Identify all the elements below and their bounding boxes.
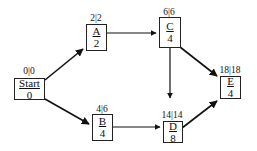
edge-layer bbox=[0, 0, 257, 151]
node-a: A 2 bbox=[86, 24, 107, 51]
node-start: Start 0 bbox=[14, 78, 45, 100]
node-e-duration: 4 bbox=[228, 88, 234, 99]
node-b-times: 4|6 bbox=[96, 104, 107, 114]
node-start-duration: 0 bbox=[27, 90, 33, 101]
node-start-times: 0|0 bbox=[23, 66, 34, 76]
node-e: E 4 bbox=[220, 76, 241, 99]
node-c-times: 6|6 bbox=[163, 7, 174, 17]
node-c-name: C bbox=[166, 21, 173, 32]
node-b: B 4 bbox=[92, 114, 113, 141]
node-c: C 4 bbox=[159, 17, 181, 48]
node-a-times: 2|2 bbox=[90, 13, 101, 23]
edge-d-e bbox=[182, 101, 217, 128]
node-start-name: Start bbox=[19, 78, 40, 89]
node-e-name: E bbox=[227, 76, 234, 87]
edge-start-b bbox=[45, 99, 89, 124]
node-b-name: B bbox=[99, 116, 106, 127]
node-e-times: 18|18 bbox=[220, 65, 241, 75]
node-d-name: D bbox=[169, 121, 177, 132]
edge-start-a bbox=[45, 49, 83, 80]
edge-c-e bbox=[180, 47, 217, 76]
node-a-duration: 2 bbox=[94, 38, 100, 49]
node-b-duration: 4 bbox=[100, 128, 106, 139]
node-c-duration: 4 bbox=[167, 33, 173, 44]
node-d-times: 14|14 bbox=[162, 110, 183, 120]
node-d-duration: 8 bbox=[170, 133, 176, 144]
node-a-name: A bbox=[93, 26, 101, 37]
node-d: D 8 bbox=[163, 121, 183, 143]
